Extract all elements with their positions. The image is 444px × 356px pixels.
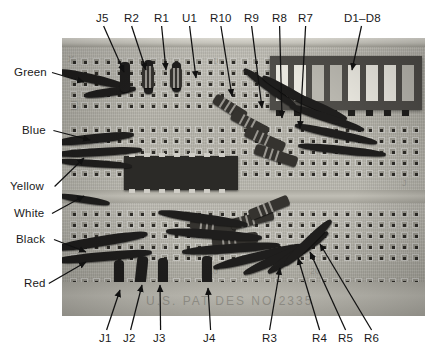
leader-line-white bbox=[52, 196, 84, 214]
leader-line-blue bbox=[53, 131, 90, 141]
label-r4: R4 bbox=[312, 332, 327, 345]
label-j4: J4 bbox=[203, 332, 216, 345]
label-r2: R2 bbox=[124, 12, 139, 25]
leader-line-j3 bbox=[160, 285, 161, 330]
leader-line-overlay bbox=[0, 0, 444, 356]
label-r10: R10 bbox=[210, 12, 232, 25]
label-r6: R6 bbox=[364, 332, 379, 345]
label-u1: U1 bbox=[182, 12, 197, 25]
label-r5: R5 bbox=[338, 332, 353, 345]
label-j2: J2 bbox=[123, 332, 136, 345]
label-d1-d8: D1–D8 bbox=[344, 12, 381, 25]
label-j3: J3 bbox=[153, 332, 166, 345]
leader-line-green bbox=[52, 73, 84, 83]
label-r9: R9 bbox=[244, 12, 259, 25]
leader-line-j2 bbox=[131, 285, 142, 330]
leader-line-r9 bbox=[252, 26, 262, 108]
leader-line-j1 bbox=[107, 290, 120, 330]
label-r1: R1 bbox=[154, 12, 169, 25]
leader-line-red bbox=[49, 262, 86, 284]
leader-line-r10 bbox=[221, 26, 232, 96]
leader-line-r5 bbox=[310, 252, 346, 330]
label-blue: Blue bbox=[22, 124, 46, 137]
label-black: Black bbox=[16, 233, 45, 246]
label-r7: R7 bbox=[298, 12, 313, 25]
label-r3: R3 bbox=[262, 332, 277, 345]
leader-line-d1-d8 bbox=[352, 26, 362, 70]
leader-line-r2 bbox=[132, 26, 146, 70]
leader-line-r1 bbox=[162, 26, 166, 70]
leader-line-r3 bbox=[270, 268, 280, 330]
label-j1: J1 bbox=[99, 332, 112, 345]
leader-line-yellow bbox=[55, 158, 84, 187]
leader-line-r6 bbox=[320, 244, 372, 330]
leader-line-black bbox=[54, 240, 86, 253]
leader-line-j4 bbox=[208, 288, 211, 330]
leader-line-u1 bbox=[190, 26, 196, 78]
label-red: Red bbox=[24, 277, 46, 290]
leader-line-r7 bbox=[300, 26, 306, 128]
label-white: White bbox=[14, 207, 44, 220]
label-yellow: Yellow bbox=[10, 180, 44, 193]
leader-line-j5 bbox=[104, 26, 124, 72]
leader-line-r8 bbox=[280, 26, 282, 118]
label-r8: R8 bbox=[272, 12, 287, 25]
annotated-breadboard-figure: X B 10 20 J 10 20 bbox=[0, 0, 444, 356]
leader-line-r4 bbox=[298, 258, 320, 330]
label-j5: J5 bbox=[96, 12, 109, 25]
label-green: Green bbox=[14, 66, 47, 79]
